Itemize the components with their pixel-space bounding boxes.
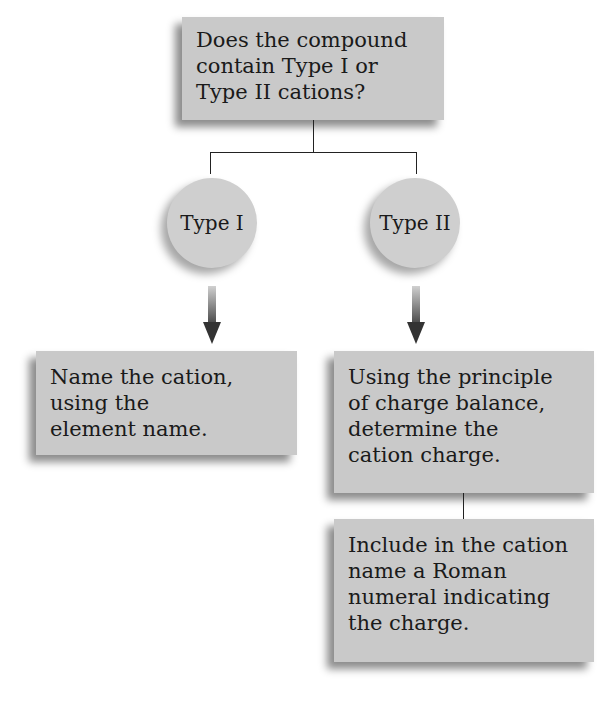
question-box: Does the compound contain Type I or Type… (182, 17, 444, 120)
type-ii-step1-box: Using the principle of charge balance, d… (334, 351, 594, 493)
arrow-down-icon (407, 286, 425, 344)
type-ii-node: Type II (370, 178, 460, 268)
arrow-down-icon (203, 286, 221, 344)
step-line: cation charge. (348, 442, 580, 468)
step-line: determine the (348, 416, 580, 442)
step-line: name a Roman (348, 558, 580, 584)
connector-stem (313, 120, 314, 152)
connector-right-drop (416, 152, 417, 174)
type-ii-label: Type II (379, 211, 450, 235)
step-line: Using the principle (348, 364, 580, 390)
type-ii-step2-box: Include in the cation name a Roman numer… (334, 519, 594, 662)
type-i-label: Type I (180, 211, 244, 235)
type-i-node: Type I (167, 178, 257, 268)
step-line: of charge balance, (348, 390, 580, 416)
step-line: Name the cation, (50, 364, 283, 390)
step-line: using the (50, 390, 283, 416)
connector-step1-step2 (463, 493, 464, 519)
type-i-step-box: Name the cation, using the element name. (36, 351, 297, 455)
step-line: Include in the cation (348, 532, 580, 558)
step-line: the charge. (348, 610, 580, 636)
connector-left-drop (210, 152, 211, 174)
question-line: contain Type I or (196, 53, 430, 79)
connector-horizontal (210, 152, 417, 153)
question-line: Does the compound (196, 27, 430, 53)
question-line: Type II cations? (196, 79, 430, 105)
step-line: element name. (50, 416, 283, 442)
step-line: numeral indicating (348, 584, 580, 610)
